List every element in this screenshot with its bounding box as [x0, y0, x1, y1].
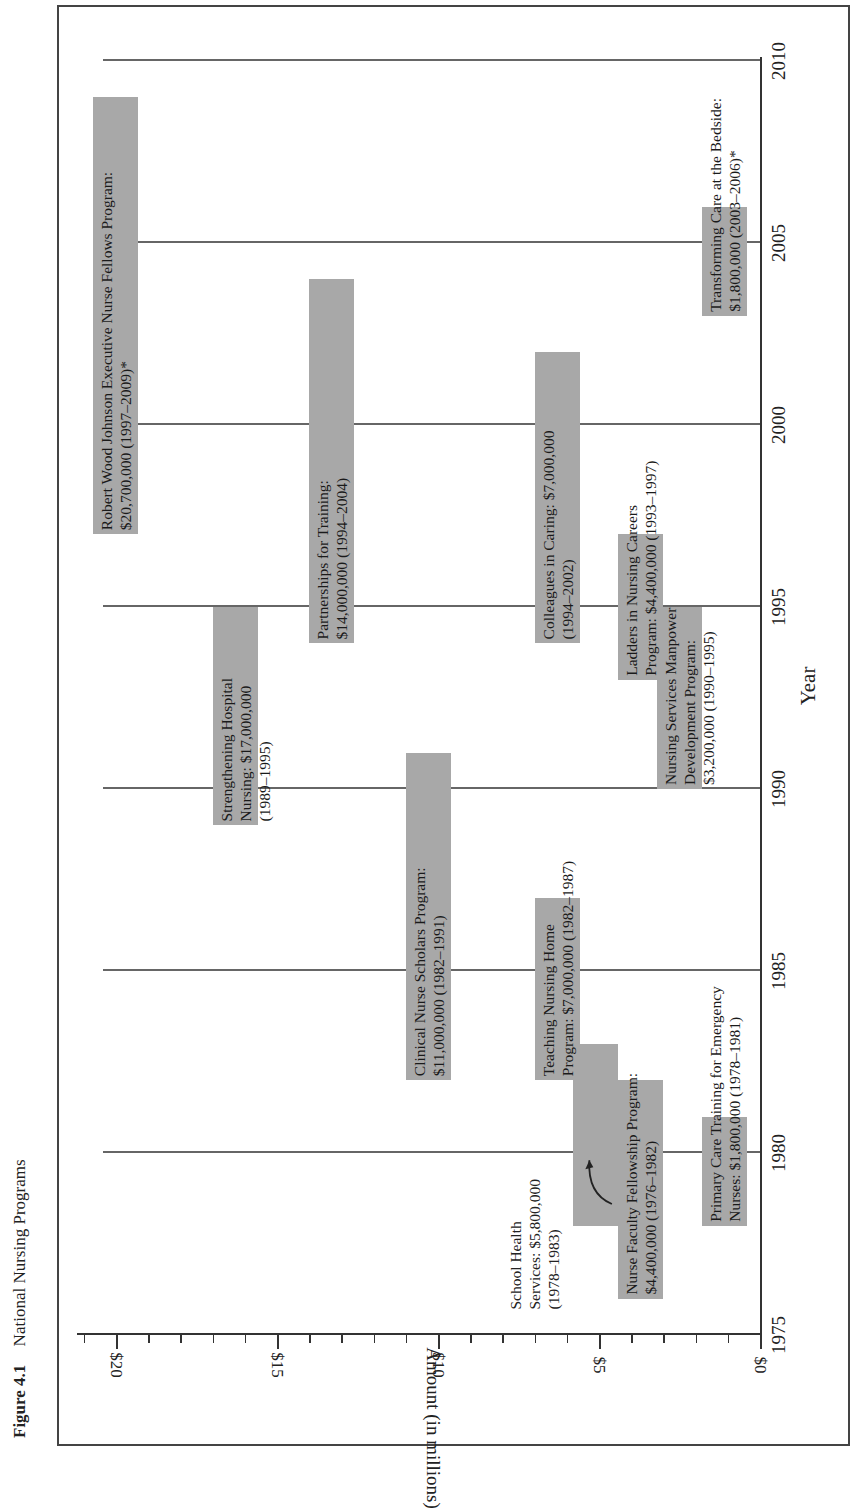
annotation-arrow-icon: [0, 0, 864, 1468]
chart-stage: Figure 4.1 National Nursing Programs Amo…: [0, 0, 864, 1468]
